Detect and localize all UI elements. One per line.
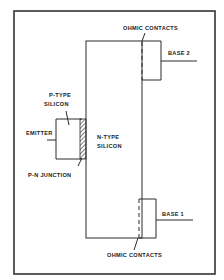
- ohmic-contacts-bottom-label: OHMIC CONTACTS: [107, 252, 162, 258]
- ntype-label-line2: SILICON: [97, 143, 122, 149]
- emitter-label: EMITTER: [26, 130, 53, 136]
- pn-junction-label: P-N JUNCTION: [28, 172, 71, 178]
- ujt-diagram: OHMIC CONTACTS BASE 2 P-TYPE SILICON EMI…: [0, 0, 224, 280]
- ptype-label-line1: P-TYPE: [49, 92, 71, 98]
- base1-label: BASE 1: [162, 211, 184, 217]
- base2-label: BASE 2: [168, 50, 190, 56]
- ntype-label-line1: N-TYPE: [97, 134, 119, 140]
- ohmic-contacts-top-label: OHMIC CONTACTS: [123, 25, 178, 31]
- base2-contact-block: [142, 41, 161, 80]
- ohmic-bottom-leader: [134, 238, 138, 250]
- pn-junction-region: [80, 119, 86, 159]
- ptype-leader: [66, 111, 69, 125]
- ohmic-top-leader: [142, 33, 145, 41]
- ptype-label-line2: SILICON: [44, 101, 69, 107]
